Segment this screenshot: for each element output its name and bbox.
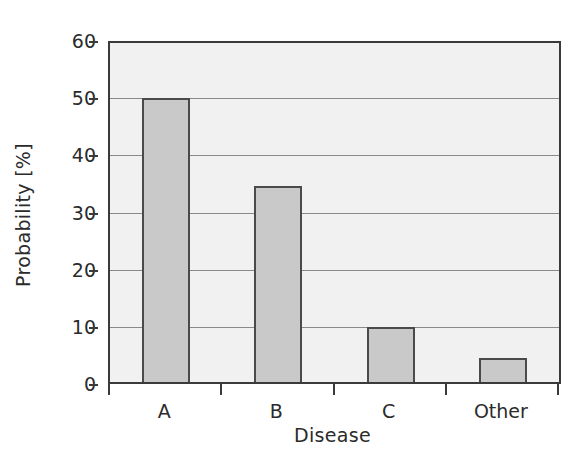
bar-b xyxy=(254,186,302,384)
y-axis-label-container: Probability [%] xyxy=(0,0,46,430)
plot-area xyxy=(108,41,561,384)
y-axis-tick-group: 0102030405060 xyxy=(46,41,98,384)
gridline xyxy=(110,41,559,43)
y-axis-tick-mark xyxy=(89,213,98,215)
x-axis-label: Disease xyxy=(108,424,557,446)
bar-c xyxy=(367,327,415,384)
bar-other xyxy=(479,358,527,384)
x-axis-tick-mark xyxy=(220,384,222,395)
y-axis-tick-mark xyxy=(89,98,98,100)
bar-a xyxy=(142,98,190,384)
x-axis-tick-label: B xyxy=(270,400,283,422)
plot-inner xyxy=(110,41,559,384)
y-axis-tick-mark xyxy=(89,384,98,386)
x-axis-tick-mark xyxy=(445,384,447,395)
x-axis-tick-mark xyxy=(108,384,110,395)
x-axis-tick-label: C xyxy=(382,400,395,422)
bar-chart-figure: Probability [%] 0102030405060 ABCOther D… xyxy=(0,0,584,469)
x-axis-tick-mark xyxy=(557,384,559,395)
x-axis-tick-label: A xyxy=(158,400,171,422)
y-axis-tick-mark xyxy=(89,155,98,157)
y-axis-label: Probability [%] xyxy=(12,143,34,287)
x-axis-tick-label: Other xyxy=(474,400,528,422)
y-axis-tick-mark xyxy=(89,41,98,43)
x-axis-tick-mark xyxy=(333,384,335,395)
y-axis-tick-mark xyxy=(89,270,98,272)
y-axis-tick-mark xyxy=(89,327,98,329)
